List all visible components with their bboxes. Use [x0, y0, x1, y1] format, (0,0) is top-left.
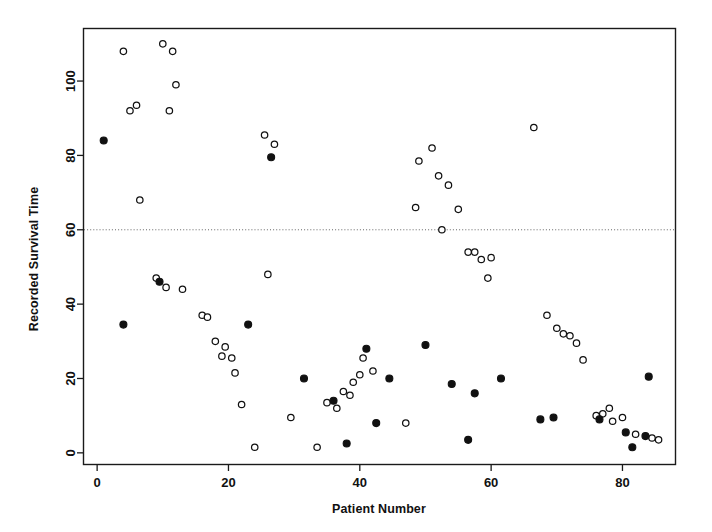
data-point-open	[357, 372, 363, 378]
data-point-filled	[343, 440, 350, 447]
data-point-filled	[471, 390, 478, 397]
y-tick-label: 40	[64, 297, 79, 311]
x-tick-label: 60	[484, 475, 498, 490]
series-filled-circle	[100, 137, 652, 451]
data-point-open	[455, 206, 461, 212]
data-point-filled	[465, 436, 472, 443]
scatter-plot-figure: 020406080100 020406080 Patient Number Re…	[0, 0, 712, 532]
data-point-open	[649, 435, 655, 441]
data-point-open	[544, 312, 550, 318]
data-point-filled	[537, 416, 544, 423]
data-point-open	[163, 284, 169, 290]
y-tick-label: 100	[64, 70, 79, 92]
data-point-open	[435, 173, 441, 179]
y-axis: 020406080100	[64, 70, 85, 456]
data-point-filled	[596, 416, 603, 423]
data-point-filled	[622, 429, 629, 436]
data-point-open	[166, 108, 172, 114]
x-tick-label: 20	[221, 475, 235, 490]
data-point-filled	[120, 321, 127, 328]
data-point-open	[350, 379, 356, 385]
data-point-open	[127, 108, 133, 114]
data-point-open	[531, 124, 537, 130]
data-point-open	[445, 182, 451, 188]
data-point-open	[219, 353, 225, 359]
data-point-open	[439, 227, 445, 233]
x-axis: 020406080	[94, 464, 630, 490]
data-point-filled	[629, 444, 636, 451]
data-point-open	[324, 399, 330, 405]
data-point-open	[554, 325, 560, 331]
data-point-filled	[422, 342, 429, 349]
data-point-open	[252, 444, 258, 450]
data-point-filled	[373, 420, 380, 427]
data-point-open	[416, 158, 422, 164]
data-point-open	[560, 331, 566, 337]
data-point-filled	[642, 433, 649, 440]
x-tick-label: 0	[94, 475, 101, 490]
data-point-filled	[300, 375, 307, 382]
data-point-filled	[100, 137, 107, 144]
data-point-filled	[330, 397, 337, 404]
y-tick-label: 60	[64, 223, 79, 237]
plot-frame	[84, 29, 676, 465]
data-point-filled	[497, 375, 504, 382]
data-point-open	[370, 368, 376, 374]
x-tick-label: 40	[353, 475, 367, 490]
data-point-open	[271, 141, 277, 147]
data-point-open	[429, 145, 435, 151]
data-point-open	[120, 48, 126, 54]
data-point-open	[314, 444, 320, 450]
data-point-open	[567, 333, 573, 339]
data-point-open	[334, 405, 340, 411]
data-point-open	[655, 437, 661, 443]
data-point-filled	[386, 375, 393, 382]
data-point-open	[403, 420, 409, 426]
data-point-open	[360, 355, 366, 361]
data-point-open	[169, 48, 175, 54]
data-point-filled	[268, 154, 275, 161]
data-point-filled	[550, 414, 557, 421]
data-point-open	[478, 256, 484, 262]
data-point-open	[412, 204, 418, 210]
data-point-filled	[363, 345, 370, 352]
data-point-open	[632, 431, 638, 437]
data-point-open	[238, 401, 244, 407]
data-point-open	[133, 102, 139, 108]
y-tick-label: 80	[64, 148, 79, 162]
data-point-open	[573, 340, 579, 346]
series-open-circle	[120, 41, 662, 451]
y-axis-title: Recorded Survival Time	[27, 187, 41, 331]
x-tick-label: 80	[615, 475, 629, 490]
data-point-open	[229, 355, 235, 361]
data-point-open	[580, 357, 586, 363]
plot-canvas: 020406080100 020406080 Patient Number Re…	[0, 0, 712, 532]
data-point-open	[609, 418, 615, 424]
data-point-open	[288, 414, 294, 420]
y-tick-label: 20	[64, 371, 79, 385]
data-point-open	[222, 344, 228, 350]
data-point-open	[160, 41, 166, 47]
data-point-open	[340, 388, 346, 394]
data-point-open	[173, 82, 179, 88]
data-point-open	[137, 197, 143, 203]
data-point-open	[606, 405, 612, 411]
data-point-filled	[448, 381, 455, 388]
y-tick-label: 0	[64, 449, 79, 456]
data-point-open	[212, 338, 218, 344]
data-point-open	[465, 249, 471, 255]
data-point-filled	[245, 321, 252, 328]
data-point-filled	[156, 278, 163, 285]
data-point-open	[488, 254, 494, 260]
data-point-filled	[645, 373, 652, 380]
data-point-open	[472, 249, 478, 255]
data-point-open	[204, 314, 210, 320]
data-point-open	[485, 275, 491, 281]
data-points-layer	[100, 41, 662, 451]
x-axis-title: Patient Number	[332, 502, 426, 516]
data-point-open	[619, 414, 625, 420]
data-point-open	[347, 392, 353, 398]
data-point-open	[179, 286, 185, 292]
data-point-open	[232, 370, 238, 376]
data-point-open	[261, 132, 267, 138]
